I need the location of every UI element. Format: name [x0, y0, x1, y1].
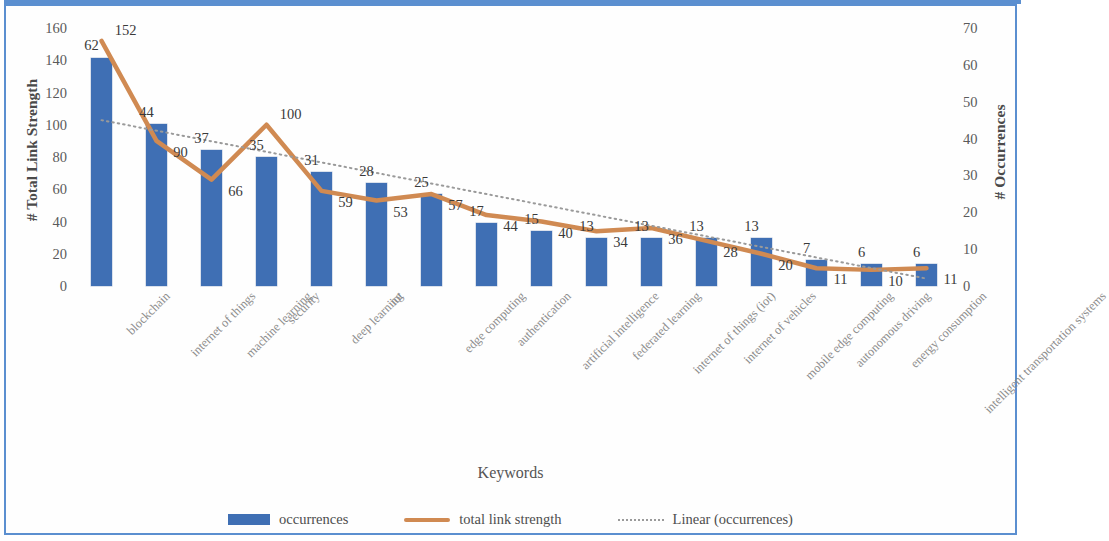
y-tick-label: 0 [60, 278, 67, 295]
occurrence-value-label: 7 [803, 240, 810, 257]
link-strength-value-label: 34 [613, 234, 628, 251]
occurrence-value-label: 37 [194, 130, 209, 147]
secondary-y-axis-title: # Occurrences [990, 44, 1010, 259]
secondary-y-tick-label: 60 [963, 56, 978, 73]
y-tick-label: 160 [45, 20, 67, 37]
occurrence-value-label: 31 [304, 152, 319, 169]
link-strength-value-label: 40 [558, 225, 573, 242]
legend-item[interactable]: total link strength [404, 511, 561, 528]
y-tick-label: 140 [45, 52, 67, 69]
secondary-y-tick-label: 70 [963, 20, 978, 37]
chart-legend: occurrencestotal link strengthLinear (oc… [6, 511, 1015, 528]
legend-item[interactable]: Linear (occurrences) [618, 511, 793, 528]
bar-swatch-icon [228, 514, 270, 525]
secondary-y-tick-label: 50 [963, 93, 978, 110]
link-strength-value-label: 44 [503, 218, 518, 235]
x-tick-label: artificial intelligence [578, 289, 662, 373]
x-tick-label: intelligent transportation systems [981, 289, 1109, 417]
line-swatch-icon [404, 518, 450, 522]
chart-frame: # Total Link Strength # Occurrences 0204… [4, 4, 1017, 535]
occurrence-value-label: 44 [139, 104, 154, 121]
secondary-y-tick-label: 10 [963, 241, 978, 258]
occurrence-value-label: 13 [689, 218, 704, 235]
link-strength-value-label: 28 [723, 244, 738, 261]
occurrence-value-label: 35 [249, 137, 264, 154]
link-strength-value-label: 152 [115, 22, 137, 39]
x-axis-title: Keywords [6, 464, 1015, 482]
line-series [74, 28, 954, 286]
secondary-y-tick-label: 20 [963, 204, 978, 221]
link-strength-value-label: 90 [173, 144, 188, 161]
x-tick-label: internet of vehicles [741, 289, 819, 367]
link-strength-value-label: 57 [448, 197, 463, 214]
dotted-swatch-icon [618, 519, 664, 521]
y-tick-label: 120 [45, 84, 67, 101]
link-strength-value-label: 59 [338, 194, 353, 211]
legend-label: occurrences [279, 511, 348, 528]
occurrence-value-label: 17 [469, 203, 484, 220]
occurrence-value-label: 13 [579, 218, 594, 235]
link-strength-value-label: 11 [834, 271, 848, 288]
occurrence-value-label: 62 [84, 37, 99, 54]
occurrence-value-label: 6 [858, 244, 865, 261]
x-tick-label: edge computing [461, 289, 528, 356]
secondary-y-tick-label: 0 [963, 278, 970, 295]
y-tick-label: 100 [45, 116, 67, 133]
occurrence-value-label: 15 [524, 211, 539, 228]
occurrence-value-label: 6 [913, 244, 920, 261]
y-tick-label: 60 [53, 181, 68, 198]
y-tick-label: 80 [53, 149, 68, 166]
x-tick-label: blockchain [124, 289, 173, 338]
plot-area: 020406080100120140160 010203040506070 62… [74, 28, 954, 286]
link-strength-value-label: 20 [778, 257, 793, 274]
occurrence-value-label: 13 [744, 218, 759, 235]
secondary-y-tick-label: 30 [963, 167, 978, 184]
link-strength-value-label: 11 [944, 271, 958, 288]
link-strength-value-label: 100 [280, 106, 302, 123]
occurrence-value-label: 28 [359, 163, 374, 180]
legend-item[interactable]: occurrences [228, 511, 348, 528]
y-tick-label: 40 [53, 213, 68, 230]
total-link-strength-line [102, 41, 927, 270]
legend-label: total link strength [459, 511, 561, 528]
y-tick-label: 20 [53, 245, 68, 262]
link-strength-value-label: 36 [668, 231, 683, 248]
occurrence-value-label: 13 [634, 218, 649, 235]
x-axis-tick-labels: blockchaininternet of thingsmachine lear… [74, 289, 954, 454]
y-axis-title: # Total Link Strength [22, 30, 42, 270]
link-strength-value-label: 66 [228, 183, 243, 200]
occurrence-value-label: 25 [414, 174, 429, 191]
secondary-y-tick-label: 40 [963, 130, 978, 147]
link-strength-value-label: 53 [393, 204, 408, 221]
keyword-occurrences-chart: # Total Link Strength # Occurrences 0204… [6, 6, 1015, 533]
legend-label: Linear (occurrences) [673, 511, 793, 528]
link-strength-value-label: 10 [888, 273, 903, 290]
